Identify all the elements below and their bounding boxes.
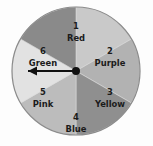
sector-name-blue: Blue bbox=[66, 124, 87, 134]
sector-name-purple: Purple bbox=[95, 58, 126, 68]
sector-name-pink: Pink bbox=[33, 99, 54, 109]
spinner-wheel[interactable]: 1Red2Purple3Yellow4Blue5Pink6Green bbox=[0, 0, 153, 146]
sector-number-purple: 2 bbox=[107, 46, 113, 56]
spinner-pivot[interactable] bbox=[72, 67, 80, 75]
sector-name-yellow: Yellow bbox=[94, 99, 125, 109]
sector-number-blue: 4 bbox=[73, 112, 79, 122]
sector-number-green: 6 bbox=[40, 46, 46, 56]
sector-number-red: 1 bbox=[73, 21, 79, 31]
sector-number-yellow: 3 bbox=[107, 87, 113, 97]
sector-name-red: Red bbox=[67, 33, 85, 43]
sector-number-pink: 5 bbox=[40, 87, 46, 97]
sector-name-green: Green bbox=[29, 58, 57, 68]
spinner-figure: 1Red2Purple3Yellow4Blue5Pink6Green bbox=[0, 0, 153, 146]
